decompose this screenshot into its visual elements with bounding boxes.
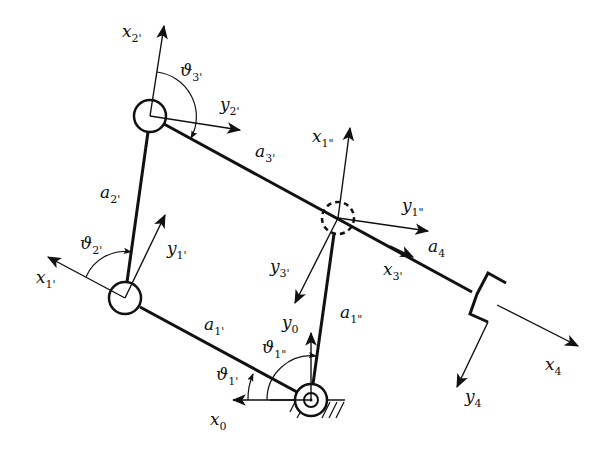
label-y3p: y3' [269,256,290,280]
label-y4: y4 [464,386,482,410]
label-theta1p: ϑ1' [216,364,238,388]
link-a2p [127,132,148,282]
label-x2p: x2' [122,21,142,45]
base-joint [270,384,345,418]
label-y1p: y1' [166,238,187,262]
label-y1pp: y1" [401,195,424,219]
label-a3p: a3' [255,141,275,165]
linkage-diagram: x2' ϑ3' y2' a3' a2' x1" y1" ϑ2' y1' x1' … [0,0,605,449]
gripper [470,273,506,322]
axis-x1p [48,257,125,298]
label-a2p: a2' [100,182,120,206]
gripper-jaws [470,273,506,322]
axis-x4 [497,305,578,346]
label-x3p: x3' [383,259,403,283]
label-a4: a4 [428,236,445,260]
axis-y1pp [338,218,428,231]
link-a3-a4 [164,124,472,292]
label-theta2p: ϑ2' [80,233,102,257]
frame-axes [48,26,578,400]
label-x0: x0 [210,409,227,433]
label-a1pp: a1" [340,302,362,326]
axis-x3p [390,246,413,257]
label-a1p: a1' [204,314,224,338]
labels: x2' ϑ3' y2' a3' a2' x1" y1" ϑ2' y1' x1' … [36,21,562,433]
label-x1p: x1' [36,267,56,291]
label-theta3p: ϑ3' [180,60,202,84]
label-x4: x4 [545,354,562,378]
label-y2p: y2' [219,94,240,118]
label-x1pp: x1" [312,126,334,150]
axis-y4 [457,322,488,387]
link-a1pp [313,234,334,384]
arc-theta1p [248,374,253,400]
label-y0: y0 [281,312,299,336]
label-theta1pp: ϑ1" [262,337,286,361]
